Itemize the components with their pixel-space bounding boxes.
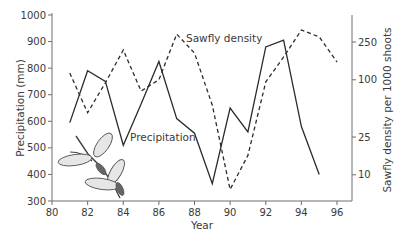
labels-group: Precipitation (mm) Sawfly density per 10… — [14, 27, 393, 231]
y-tick-label: 800 — [27, 63, 46, 74]
y-tick-label: 400 — [27, 169, 46, 180]
x-tick-label: 90 — [224, 207, 237, 218]
series-sawfly-density — [70, 30, 337, 190]
x-tick-label: 96 — [331, 207, 344, 218]
series-group — [70, 30, 337, 190]
y-right-tick-label: 10 — [358, 169, 371, 180]
y-right-tick-label: 250 — [358, 37, 377, 48]
y-axis-title: Precipitation (mm) — [14, 59, 26, 157]
sawfly-series-label: Sawfly density — [186, 32, 262, 44]
y-axis-right-title: Sawfly density per 1000 shoots — [381, 27, 393, 192]
x-tick-label: 88 — [188, 207, 201, 218]
x-axis-title: Year — [190, 219, 214, 231]
y-right-tick-label: 100 — [358, 74, 377, 85]
x-tick-label: 92 — [259, 207, 272, 218]
y-tick-label: 1000 — [21, 10, 46, 21]
precipitation-series-label: Precipitation — [130, 131, 196, 143]
y-tick-label: 500 — [27, 142, 46, 153]
y-tick-label: 700 — [27, 89, 46, 100]
series-precipitation — [70, 40, 319, 184]
y-tick-label: 300 — [27, 196, 46, 207]
x-tick-label: 86 — [153, 207, 166, 218]
y-right-tick-label: 25 — [358, 132, 371, 143]
x-tick-label: 84 — [117, 207, 130, 218]
y-tick-label: 900 — [27, 36, 46, 47]
sawfly-illustration-icon — [57, 130, 127, 198]
x-tick-label: 82 — [81, 207, 94, 218]
y-tick-label: 600 — [27, 116, 46, 127]
sawfly-precipitation-chart: 3004005006007008009001000808284868890929… — [0, 0, 403, 237]
x-tick-label: 94 — [295, 207, 308, 218]
x-tick-label: 80 — [46, 207, 59, 218]
